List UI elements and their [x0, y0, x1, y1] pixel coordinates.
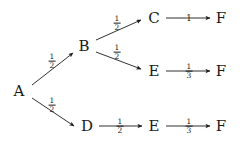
tree-node-f1: F [216, 11, 226, 26]
edge-weight-c-f1: 1 [186, 14, 191, 23]
tree-node-b: B [78, 39, 89, 54]
fraction-denominator: 2 [117, 127, 124, 135]
tree-node-f2: F [216, 64, 226, 79]
fraction-denominator: 3 [186, 127, 193, 135]
fraction-denominator: 3 [186, 72, 193, 80]
tree-node-a: A [14, 84, 25, 99]
edge-weight-a-b: 12 [49, 53, 56, 70]
edge-weight-d-e2: 12 [117, 118, 124, 135]
fraction: 12 [49, 53, 56, 70]
fraction-denominator: 2 [114, 53, 121, 61]
fraction-denominator: 2 [114, 24, 121, 32]
probability-tree-diagram: ABCFEFDEF 121212121131213 [0, 0, 240, 146]
fraction-denominator: 2 [49, 106, 56, 114]
fraction: 13 [186, 118, 193, 135]
fraction-denominator: 2 [49, 62, 56, 70]
edge-weight-b-e1: 12 [114, 44, 121, 61]
edge-weight-a-d: 12 [49, 97, 56, 114]
fraction: 12 [114, 15, 121, 32]
tree-node-e1: E [149, 64, 160, 79]
tree-node-c: C [148, 11, 159, 26]
fraction: 12 [117, 118, 124, 135]
edge-weight-value: 1 [186, 14, 191, 23]
edge-weight-b-c: 12 [114, 15, 121, 32]
fraction: 12 [49, 97, 56, 114]
edge-weight-e2-f3: 13 [186, 118, 193, 135]
fraction: 13 [186, 63, 193, 80]
tree-node-f3: F [216, 119, 226, 134]
edge-weight-e1-f2: 13 [186, 63, 193, 80]
edges-group [32, 18, 210, 126]
tree-node-d: D [81, 119, 93, 134]
tree-node-e2: E [149, 119, 160, 134]
fraction: 12 [114, 44, 121, 61]
